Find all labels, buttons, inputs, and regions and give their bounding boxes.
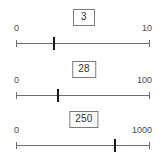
slider-3-value-box[interactable]: 250 bbox=[69, 111, 98, 128]
slider-3-track-line bbox=[16, 145, 150, 146]
slider-1-value-box[interactable]: 3 bbox=[73, 9, 95, 26]
slider-row-3: 250 0 1000 bbox=[0, 102, 168, 152]
slider-1-left-endcap bbox=[16, 40, 17, 47]
slider-group-panel: 3 0 10 28 0 100 250 0 1000 bbox=[0, 0, 168, 157]
slider-2-value-box[interactable]: 28 bbox=[72, 61, 96, 78]
slider-2-thumb[interactable] bbox=[57, 89, 59, 102]
slider-1-right-endcap bbox=[149, 40, 150, 47]
slider-3-left-endcap bbox=[16, 142, 17, 149]
slider-1-thumb[interactable] bbox=[53, 37, 55, 50]
slider-1-max-label: 10 bbox=[142, 23, 152, 33]
slider-2-track-line bbox=[16, 95, 150, 96]
slider-1-track-line bbox=[16, 43, 150, 44]
slider-3-max-label: 1000 bbox=[132, 125, 152, 135]
slider-3-right-endcap bbox=[149, 142, 150, 149]
slider-row-2: 28 0 100 bbox=[0, 52, 168, 102]
slider-row-1: 3 0 10 bbox=[0, 0, 168, 52]
slider-1-min-label: 0 bbox=[14, 23, 19, 33]
slider-3-min-label: 0 bbox=[14, 125, 19, 135]
slider-2-min-label: 0 bbox=[14, 75, 19, 85]
slider-2-left-endcap bbox=[16, 92, 17, 99]
slider-3-track[interactable] bbox=[16, 136, 150, 154]
slider-2-right-endcap bbox=[149, 92, 150, 99]
slider-2-max-label: 100 bbox=[137, 75, 152, 85]
slider-3-thumb[interactable] bbox=[114, 139, 116, 152]
slider-1-track[interactable] bbox=[16, 34, 150, 52]
